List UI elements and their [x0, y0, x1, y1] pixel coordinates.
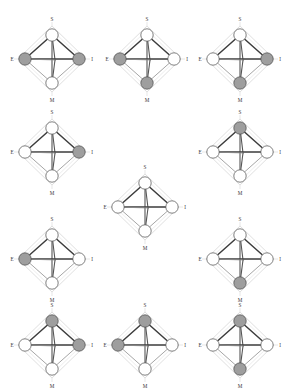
vertex-label-top: S [51, 109, 54, 115]
node-S[interactable] [234, 122, 246, 134]
node-S[interactable] [46, 315, 58, 327]
vertex-label-left: E [105, 56, 108, 62]
node-I[interactable] [166, 339, 178, 351]
vertex-label-bottom: M [145, 97, 150, 103]
node-I[interactable] [261, 146, 273, 158]
vertex-label-right: I [186, 56, 188, 62]
node-M[interactable] [234, 77, 246, 89]
node-E[interactable] [112, 339, 124, 351]
vertex-label-top: S [144, 302, 147, 308]
vertex-label-right: I [184, 342, 186, 348]
vertex-label-bottom: M [238, 190, 243, 196]
node-E[interactable] [114, 53, 126, 65]
vertex-label-left: E [10, 149, 13, 155]
vertex-label-top: S [51, 216, 54, 222]
node-M[interactable] [234, 170, 246, 182]
node-M[interactable] [139, 225, 151, 237]
node-M[interactable] [234, 277, 246, 289]
vertex-label-bottom: M [50, 190, 55, 196]
node-E[interactable] [207, 253, 219, 265]
tetrahedron-panel[interactable]: SEIM [98, 160, 192, 254]
node-E[interactable] [112, 201, 124, 213]
tetrahedron-panel[interactable]: SEIM [98, 298, 192, 392]
tetrahedron-panel[interactable]: SEIM [193, 298, 287, 392]
vertex-label-left: E [198, 256, 201, 262]
node-I[interactable] [168, 53, 180, 65]
node-S[interactable] [141, 29, 153, 41]
node-I[interactable] [261, 53, 273, 65]
vertex-label-bottom: M [50, 383, 55, 389]
vertex-label-top: S [51, 302, 54, 308]
vertex-label-right: I [91, 342, 93, 348]
tetrahedron-panel[interactable]: SEIM [100, 12, 194, 106]
node-E[interactable] [207, 339, 219, 351]
node-I[interactable] [166, 201, 178, 213]
vertex-label-right: I [279, 149, 281, 155]
vertex-label-top: S [146, 16, 149, 22]
vertex-label-left: E [198, 56, 201, 62]
vertex-label-right: I [279, 342, 281, 348]
node-M[interactable] [46, 277, 58, 289]
vertex-label-left: E [10, 256, 13, 262]
tetrahedron-panel[interactable]: SEIM [5, 105, 99, 199]
vertex-label-right: I [91, 56, 93, 62]
vertex-label-top: S [239, 109, 242, 115]
vertex-label-right: I [91, 149, 93, 155]
tetrahedron-panel[interactable]: SEIM [193, 12, 287, 106]
vertex-label-left: E [10, 56, 13, 62]
vertex-label-right: I [91, 256, 93, 262]
node-S[interactable] [234, 315, 246, 327]
tetrahedron-panel[interactable]: SEIM [5, 298, 99, 392]
vertex-label-left: E [103, 342, 106, 348]
node-S[interactable] [139, 177, 151, 189]
vertex-label-left: E [198, 149, 201, 155]
node-S[interactable] [46, 229, 58, 241]
node-S[interactable] [46, 122, 58, 134]
node-S[interactable] [46, 29, 58, 41]
node-E[interactable] [19, 339, 31, 351]
node-M[interactable] [46, 363, 58, 375]
node-M[interactable] [141, 77, 153, 89]
vertex-label-bottom: M [143, 383, 148, 389]
vertex-label-left: E [198, 342, 201, 348]
tetrahedron-panel[interactable]: SEIM [193, 105, 287, 199]
node-M[interactable] [46, 77, 58, 89]
vertex-label-top: S [239, 16, 242, 22]
node-S[interactable] [139, 315, 151, 327]
node-E[interactable] [19, 253, 31, 265]
node-E[interactable] [207, 146, 219, 158]
node-I[interactable] [73, 53, 85, 65]
node-E[interactable] [19, 146, 31, 158]
vertex-label-bottom: M [238, 383, 243, 389]
node-I[interactable] [261, 339, 273, 351]
node-E[interactable] [207, 53, 219, 65]
vertex-label-top: S [51, 16, 54, 22]
tetrahedron-panel[interactable]: SEIM [193, 212, 287, 306]
vertex-label-right: I [279, 256, 281, 262]
tetrahedron-panel[interactable]: SEIM [5, 212, 99, 306]
tetrahedron-panel[interactable]: SEIM [5, 12, 99, 106]
vertex-label-bottom: M [238, 97, 243, 103]
node-I[interactable] [73, 253, 85, 265]
vertex-label-left: E [103, 204, 106, 210]
node-M[interactable] [139, 363, 151, 375]
node-I[interactable] [73, 339, 85, 351]
vertex-label-right: I [184, 204, 186, 210]
node-I[interactable] [261, 253, 273, 265]
vertex-label-bottom: M [50, 97, 55, 103]
node-S[interactable] [234, 29, 246, 41]
vertex-label-top: S [144, 164, 147, 170]
vertex-label-bottom: M [143, 245, 148, 251]
node-E[interactable] [19, 53, 31, 65]
vertex-label-right: I [279, 56, 281, 62]
node-S[interactable] [234, 229, 246, 241]
node-I[interactable] [73, 146, 85, 158]
node-M[interactable] [234, 363, 246, 375]
vertex-label-top: S [239, 302, 242, 308]
node-M[interactable] [46, 170, 58, 182]
vertex-label-top: S [239, 216, 242, 222]
vertex-label-left: E [10, 342, 13, 348]
